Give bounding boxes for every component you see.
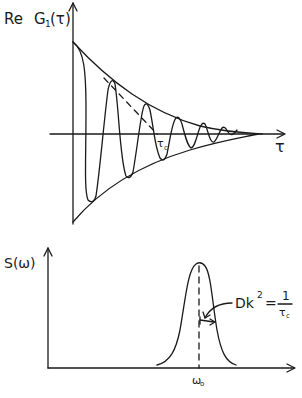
tau-c-label-sub: c xyxy=(164,144,168,152)
annotation-exp: 2 xyxy=(257,290,263,300)
annotation-num: 1 xyxy=(282,289,290,303)
top-y-label-re: Re xyxy=(4,10,23,28)
annotation-eq: = xyxy=(265,295,277,311)
upper-envelope xyxy=(73,42,262,134)
omega0-label-sub: o xyxy=(200,380,204,388)
bottom-y-label: S(ω) xyxy=(4,255,36,271)
tau-c-label: τ xyxy=(157,137,164,150)
top-plot: Re G 1 (τ) τ τ c xyxy=(4,3,285,224)
annotation-den-sub: c xyxy=(286,312,290,320)
diagram-canvas: Re G 1 (τ) τ τ c S(ω) ω o Dk 2 = 1 xyxy=(0,0,302,398)
top-y-label-arg: (τ) xyxy=(50,10,71,28)
spectral-peak-curve xyxy=(157,263,236,365)
annotation-dk: Dk xyxy=(235,295,255,311)
top-x-label-tau: τ xyxy=(275,137,285,156)
top-y-label-g: G xyxy=(34,10,46,28)
annotation-den: τ xyxy=(279,306,286,319)
bottom-plot: S(ω) ω o Dk 2 = 1 τ c xyxy=(4,248,295,388)
